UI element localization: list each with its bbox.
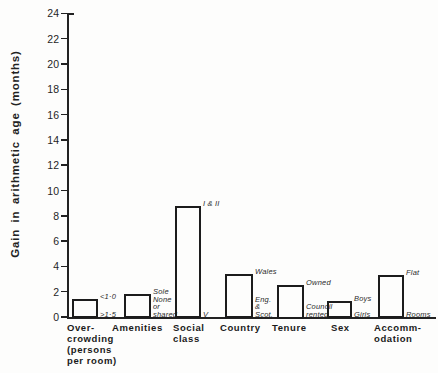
category-label-2: Amenities [112, 322, 163, 333]
y-tick-label: 0 [33, 311, 59, 323]
y-tick-label: 10 [33, 185, 59, 197]
y-tick-label: 6 [33, 235, 59, 247]
y-tick-label: 16 [33, 109, 59, 121]
y-tick-label: 4 [33, 260, 59, 272]
y-axis-title: Gain in arithmetic age (months) [9, 50, 21, 257]
y-tick-label: 24 [33, 7, 59, 19]
bar-bottom-annotation: Girls [354, 311, 370, 319]
category-label-3: Socialclass [173, 322, 205, 344]
category-label-4: Country [220, 322, 261, 333]
bar-top-annotation: <1·0 [100, 293, 116, 301]
y-tick-label: 18 [33, 83, 59, 95]
y-tick-mark [61, 266, 67, 268]
bar-bottom-annotation: V [203, 311, 208, 319]
y-tick-mark [61, 215, 67, 217]
category-label-5: Tenure [272, 322, 307, 333]
y-tick-mark [61, 291, 67, 293]
y-tick-mark [61, 63, 67, 65]
category-label-1: Over-crowding(personsper room) [67, 322, 117, 366]
y-tick-label: 8 [33, 210, 59, 222]
bar-5 [277, 285, 304, 318]
bar-top-annotation: Wales [255, 268, 277, 276]
bar-4 [225, 274, 253, 319]
y-tick-label: 22 [33, 33, 59, 45]
bar-1 [72, 299, 98, 318]
category-label-7: Accomm-odation [374, 322, 422, 344]
bar-6 [327, 301, 352, 319]
bar-bottom-annotation: Rooms [406, 311, 431, 319]
y-axis-line [67, 13, 69, 318]
bar-top-annotation: Flat [406, 269, 419, 277]
y-tick-mark [61, 316, 67, 318]
y-tick-label: 14 [33, 134, 59, 146]
y-tick-mark [61, 240, 67, 242]
y-tick-mark [61, 164, 67, 166]
y-tick-mark [61, 89, 67, 91]
bar-bottom-annotation: Noneorshared [153, 296, 177, 319]
y-tick-mark [61, 139, 67, 141]
y-axis-top-serif [69, 13, 74, 15]
bar-bottom-annotation: Eng.&Scot. [255, 296, 273, 319]
y-tick-mark [61, 38, 67, 40]
bar-top-annotation: Boys [354, 295, 371, 303]
bar-bottom-annotation: >1·5 [100, 311, 116, 319]
bar-7 [378, 275, 404, 318]
y-tick-label: 20 [33, 58, 59, 70]
y-tick-mark [61, 114, 67, 116]
y-tick-label: 12 [33, 159, 59, 171]
bar-top-annotation: I & II [203, 200, 220, 208]
y-tick-mark [61, 13, 67, 15]
bar-top-annotation: Owned [306, 279, 331, 287]
bar-2 [124, 294, 151, 318]
y-tick-label: 2 [33, 286, 59, 298]
bar-chart-figure: Gain in arithmetic age (months) 24222018… [0, 0, 438, 373]
y-tick-mark [61, 190, 67, 192]
bar-3 [175, 206, 201, 319]
category-label-6: Sex [331, 322, 350, 333]
